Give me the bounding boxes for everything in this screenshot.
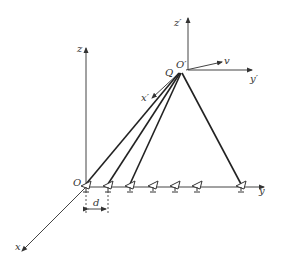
diagram-canvas: z z′ O O′ Q v y′ x′ y x d: [0, 0, 281, 269]
antenna-icon: [170, 181, 180, 192]
x-prime-label: x′: [141, 92, 150, 103]
antenna-icon: [148, 181, 158, 192]
beams: [86, 73, 241, 184]
target-label: Q: [165, 67, 173, 78]
origin-label: O: [73, 177, 81, 188]
y-prime-label: y′: [249, 73, 259, 84]
y-label: y: [258, 185, 265, 196]
x-label: x: [15, 241, 21, 252]
x-axis: [22, 187, 86, 251]
spacing-label: d: [93, 197, 99, 208]
z-label: z: [76, 43, 83, 54]
antenna-icon: [192, 181, 202, 192]
z-prime-label: z′: [173, 17, 182, 28]
origin-prime-label: O′: [176, 59, 187, 70]
velocity-label: v: [224, 55, 230, 66]
diagram-svg: z z′ O O′ Q v y′ x′ y x d: [0, 0, 281, 269]
velocity-arrow: [186, 62, 222, 70]
